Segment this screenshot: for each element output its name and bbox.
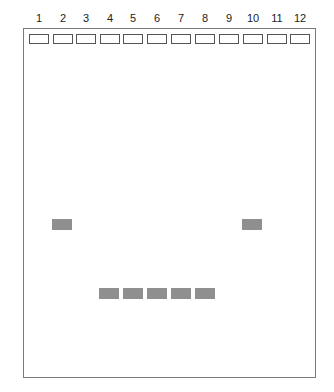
gel-frame — [23, 28, 316, 378]
band-lane-10 — [242, 219, 262, 230]
well-2 — [53, 34, 73, 44]
lane-label-7: 7 — [169, 12, 193, 24]
lane-label-3: 3 — [74, 12, 98, 24]
band-lane-8 — [195, 288, 215, 299]
lane-label-6: 6 — [145, 12, 169, 24]
lane-label-11: 11 — [265, 12, 289, 24]
well-11 — [267, 34, 287, 44]
lane-label-5: 5 — [121, 12, 145, 24]
well-7 — [171, 34, 191, 44]
lane-label-10: 10 — [241, 12, 265, 24]
well-6 — [147, 34, 167, 44]
band-lane-2 — [52, 219, 72, 230]
well-9 — [219, 34, 239, 44]
lane-label-1: 1 — [27, 12, 51, 24]
well-1 — [29, 34, 49, 44]
lane-label-9: 9 — [217, 12, 241, 24]
well-12 — [290, 34, 310, 44]
lane-label-8: 8 — [193, 12, 217, 24]
band-lane-5 — [123, 288, 143, 299]
band-lane-7 — [171, 288, 191, 299]
well-3 — [76, 34, 96, 44]
lane-label-2: 2 — [51, 12, 75, 24]
well-5 — [123, 34, 143, 44]
lane-label-4: 4 — [98, 12, 122, 24]
band-lane-4 — [99, 288, 119, 299]
well-4 — [100, 34, 120, 44]
band-lane-6 — [147, 288, 167, 299]
lane-label-12: 12 — [288, 12, 312, 24]
well-10 — [243, 34, 263, 44]
well-8 — [195, 34, 215, 44]
